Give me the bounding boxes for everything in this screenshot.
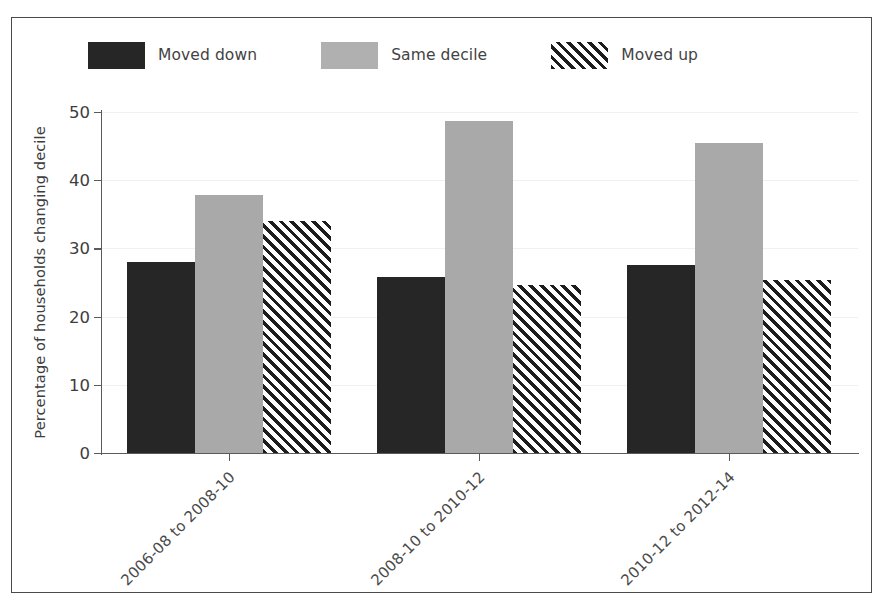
y-axis-title-text: Percentage of households changing decile bbox=[31, 126, 48, 438]
bar bbox=[195, 195, 263, 453]
legend-label-moved-up: Moved up bbox=[621, 46, 698, 64]
x-tick-mark bbox=[229, 453, 230, 461]
x-tick-label: 2010-12 to 2012-14 bbox=[617, 468, 738, 589]
bar bbox=[263, 221, 331, 453]
y-tick-mark bbox=[94, 248, 101, 249]
chart-legend: Moved down Same decile Moved up bbox=[88, 40, 698, 70]
bar bbox=[513, 285, 581, 453]
y-tick-mark bbox=[94, 317, 101, 318]
bar bbox=[127, 262, 195, 453]
bar bbox=[377, 277, 445, 453]
legend-label-same-decile: Same decile bbox=[391, 46, 487, 64]
y-tick-label: 10 bbox=[69, 375, 90, 394]
x-tick-mark bbox=[479, 453, 480, 461]
y-tick-label: 40 bbox=[69, 171, 90, 190]
bar bbox=[695, 143, 763, 453]
legend-item-moved-up: Moved up bbox=[551, 42, 698, 69]
gridline bbox=[102, 112, 858, 113]
y-tick-label: 30 bbox=[69, 239, 90, 258]
x-tick-mark bbox=[729, 453, 730, 461]
legend-item-same-decile: Same decile bbox=[321, 42, 487, 69]
bar bbox=[763, 280, 831, 453]
y-tick-label: 50 bbox=[69, 103, 90, 122]
y-tick-label: 0 bbox=[80, 444, 91, 463]
y-tick-mark bbox=[94, 112, 101, 113]
y-tick-mark bbox=[94, 453, 101, 454]
legend-item-moved-down: Moved down bbox=[88, 42, 257, 69]
legend-label-moved-down: Moved down bbox=[158, 46, 257, 64]
hatched-swatch-icon bbox=[551, 42, 608, 69]
y-tick-mark bbox=[94, 180, 101, 181]
bar bbox=[627, 265, 695, 453]
y-tick-mark bbox=[94, 385, 101, 386]
chart-figure: Moved down Same decile Moved up Percenta… bbox=[0, 0, 895, 611]
x-tick-label: 2006-08 to 2008-10 bbox=[117, 468, 238, 589]
solid-dark-swatch-icon bbox=[88, 42, 145, 69]
plot-area: 01020304050 2006-08 to 2008-102008-10 to… bbox=[101, 112, 858, 453]
solid-grey-swatch-icon bbox=[321, 42, 378, 69]
x-tick-label: 2008-10 to 2010-12 bbox=[367, 468, 488, 589]
y-axis-line bbox=[101, 110, 102, 455]
bar bbox=[445, 121, 513, 453]
y-tick-label: 20 bbox=[69, 307, 90, 326]
y-axis-title: Percentage of households changing decile bbox=[28, 112, 50, 453]
